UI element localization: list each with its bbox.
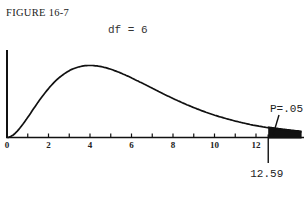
x-tick-label: 6 (129, 140, 134, 150)
x-tick-label: 0 (5, 140, 10, 150)
chi-square-chart: 024681012 12.59 P=.05 (0, 0, 304, 202)
density-curve (7, 66, 302, 138)
x-tick-label: 12 (252, 140, 262, 150)
x-tick-label: 10 (210, 140, 220, 150)
critical-value-label: 12.59 (250, 168, 283, 180)
x-tick-label: 8 (171, 140, 176, 150)
p-value-label: P=.05 (270, 103, 303, 115)
x-tick-label: 2 (46, 140, 51, 150)
x-tick-label: 4 (88, 140, 93, 150)
x-axis-tick-labels: 024681012 (5, 140, 261, 150)
